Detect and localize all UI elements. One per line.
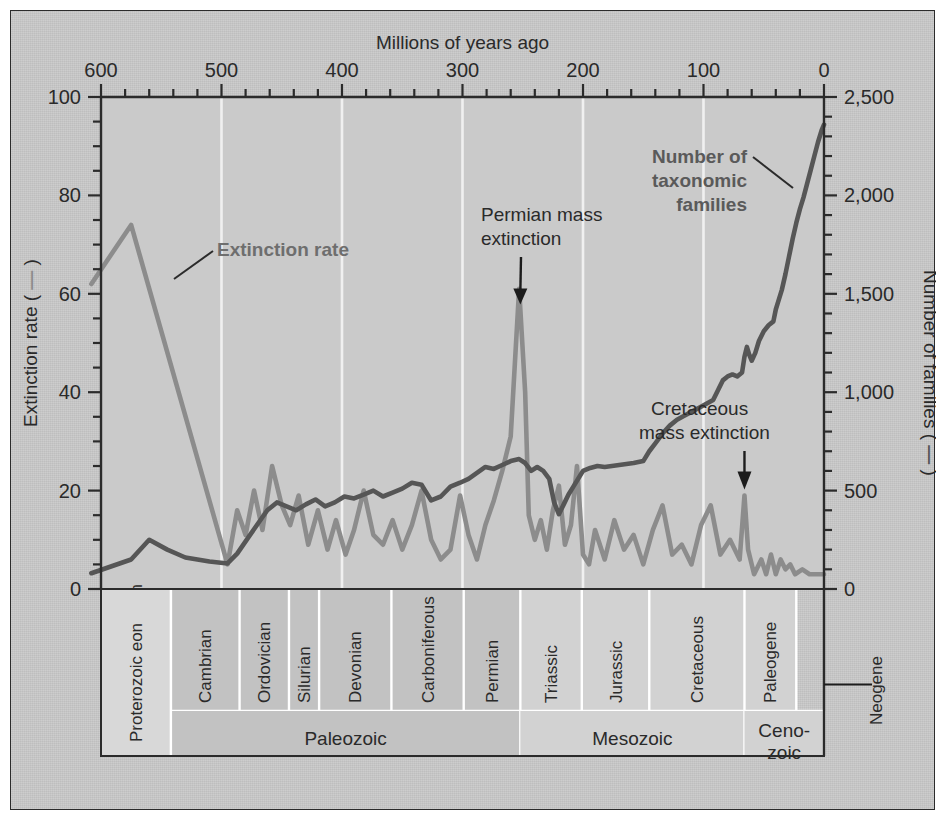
y-tick-label-right: 0 (844, 578, 855, 600)
period-label: Cretaceous (688, 616, 707, 703)
annotation-permian-line2: extinction (481, 228, 561, 249)
period-label-proterozoic: Proterozoic eon (127, 623, 146, 742)
x-tick-label: 100 (687, 59, 720, 81)
y-tick-label-left: 100 (48, 86, 81, 108)
annotation-permian-line1: Permian mass (481, 204, 602, 225)
annotation-cretaceous-line2: mass extinction (639, 422, 770, 443)
y-tick-label-left: 40 (59, 381, 81, 403)
x-tick-label: 0 (818, 59, 829, 81)
era-label: Mesozoic (592, 728, 672, 749)
period-label-neogene: Neogene (867, 656, 886, 725)
x-tick-label: 200 (566, 59, 599, 81)
y-tick-label-left: 80 (59, 184, 81, 206)
x-tick-label: 500 (205, 59, 238, 81)
axis-title-top: Millions of years ago (376, 32, 549, 53)
annotation-extinction-rate: Extinction rate (217, 239, 349, 260)
chart-figure: Proterozoic eonCambrianOrdovicianSiluria… (10, 10, 935, 810)
annotation-cretaceous-line1: Cretaceous (651, 398, 748, 419)
y-tick-label-right: 1,500 (844, 283, 894, 305)
era-label: Paleozoic (304, 728, 386, 749)
figure-root: Proterozoic eonCambrianOrdovicianSiluria… (0, 0, 947, 822)
period-label: Silurian (295, 646, 314, 703)
x-tick-label: 400 (325, 59, 358, 81)
y-tick-label-right: 2,000 (844, 184, 894, 206)
x-tick-label: 300 (446, 59, 479, 81)
period-label: Paleogene (761, 622, 780, 703)
annotation-families-line2: taxonomic (652, 170, 747, 191)
y-tick-label-right: 500 (844, 480, 877, 502)
y-tick-label-left: 0 (70, 578, 81, 600)
annotation-families-line1: Number of (652, 146, 748, 167)
period-label: Jurassic (607, 640, 626, 703)
axis-title-right: Number of families ( — ) (920, 270, 936, 476)
annotation-families-line3: families (676, 194, 747, 215)
extinction-chart-svg: Proterozoic eonCambrianOrdovicianSiluria… (11, 11, 936, 811)
axis-title-left: Extinction rate ( — ) (20, 259, 41, 427)
y-tick-label-right: 2,500 (844, 86, 894, 108)
era-label: zoic (767, 742, 801, 763)
period-label: Ordovician (255, 622, 274, 703)
period-label: Permian (483, 640, 502, 703)
period-label: Devonian (346, 631, 365, 703)
period-label: Carboniferous (419, 596, 438, 703)
era-label: Ceno- (758, 720, 810, 741)
period-label: Triassic (542, 645, 561, 703)
arrow-permian-shaft (520, 257, 521, 293)
period-label: Cambrian (196, 629, 215, 703)
y-tick-label-left: 60 (59, 283, 81, 305)
y-tick-label-right: 1,000 (844, 381, 894, 403)
x-tick-label: 600 (84, 59, 117, 81)
y-tick-label-left: 20 (59, 480, 81, 502)
